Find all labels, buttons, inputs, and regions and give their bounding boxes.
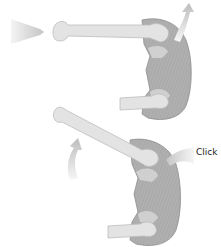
click-label: Click [196,147,217,157]
femur-lower [120,94,168,110]
push-arrow-icon [11,19,44,44]
curved-arrow-left-icon [68,138,82,180]
femur [53,107,158,166]
hip-reduction-diagram [0,0,221,247]
bottom-panel [53,107,194,245]
femur-lower [108,222,156,238]
click-arrow-icon [166,148,194,166]
top-panel [11,3,194,120]
